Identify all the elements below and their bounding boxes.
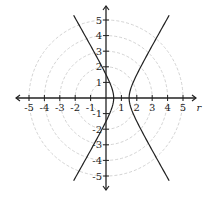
y-tick-label: 1	[96, 77, 102, 88]
y-tick-label: -3	[92, 139, 102, 150]
y-tick-label: 4	[96, 30, 102, 41]
x-tick-label: 4	[164, 102, 170, 113]
x-tick-label: -3	[55, 102, 65, 113]
x-tick-label: -5	[24, 102, 34, 113]
y-tick-label: -2	[92, 124, 102, 135]
x-tick-label: 5	[180, 102, 186, 113]
x-tick-label: 3	[149, 102, 155, 113]
y-tick-label: -4	[92, 155, 102, 166]
y-tick-label: 3	[96, 46, 102, 57]
x-tick-label: -4	[40, 102, 50, 113]
y-tick-label: -1	[92, 108, 102, 119]
polar-graph: -5-4-3-2-11234554321-1-2-3-4-5r	[0, 0, 205, 199]
x-tick-label: -2	[70, 102, 80, 113]
y-tick-label: 5	[96, 15, 102, 26]
y-tick-label: -5	[92, 171, 102, 182]
x-axis-label: r	[197, 102, 203, 113]
y-tick-label: 2	[96, 61, 102, 72]
x-tick-label: 2	[134, 102, 140, 113]
x-tick-label: 1	[118, 102, 124, 113]
axes	[16, 6, 196, 190]
